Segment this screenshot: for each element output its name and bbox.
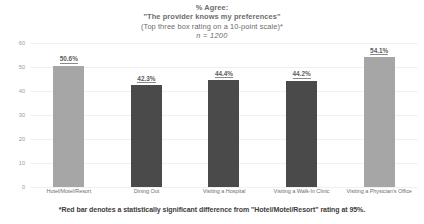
x-axis-category-label: Visiting a Hospital [185, 188, 263, 195]
bar-value-label: 44.2% [293, 70, 311, 79]
y-axis-tick-label: 50 [19, 64, 25, 70]
y-axis-tick-label: 60 [19, 40, 25, 46]
x-axis-category-label: Visiting a Walk-In Clinic [263, 188, 341, 195]
chart-title-line-1: % Agree: [0, 3, 424, 12]
bar-value-label: 54.1% [370, 47, 388, 56]
bar-value-label: 44.4% [215, 70, 233, 79]
bar-value-label: 50.6% [60, 55, 78, 64]
y-axis: 6050403020100 [0, 43, 30, 187]
y-axis-tick-label: 10 [19, 160, 25, 166]
y-axis-tick-label: 30 [19, 112, 25, 118]
bar-slot: 44.2% [263, 43, 341, 187]
bar-slot: 50.6% [30, 43, 108, 187]
x-axis-category-label: Hotel/Motel/Resort [30, 188, 108, 195]
plot-area: 6050403020100 50.6%42.3%44.4%44.2%54.1% [0, 43, 424, 187]
y-axis-tick-label: 0 [22, 184, 25, 190]
bar-slot: 54.1% [340, 43, 418, 187]
chart-title-line-3: (Top three box rating on a 10-point scal… [0, 22, 424, 31]
bar-value-label: 42.3% [137, 75, 155, 84]
y-axis-tick-label: 20 [19, 136, 25, 142]
bar[interactable]: 44.2% [286, 81, 317, 187]
bar-slot: 44.4% [185, 43, 263, 187]
bar[interactable]: 44.4% [208, 80, 239, 187]
chart-title-block: % Agree: "The provider knows my preferen… [0, 0, 424, 41]
bar[interactable]: 42.3% [131, 85, 162, 187]
chart-footnote: *Red bar denotes a statistically signifi… [0, 206, 424, 213]
chart-title-line-2: "The provider knows my preferences" [0, 12, 424, 21]
x-axis-category-label: Dining Out [108, 188, 186, 195]
bar[interactable]: 54.1% [364, 57, 395, 187]
bar-slot: 42.3% [108, 43, 186, 187]
y-axis-tick-label: 40 [19, 88, 25, 94]
bar-series: 50.6%42.3%44.4%44.2%54.1% [30, 43, 418, 187]
bar[interactable]: 50.6% [53, 66, 84, 187]
x-axis-category-label: Visiting a Physician's Office [340, 188, 418, 195]
chart-sample-size-label: n = 1200 [0, 31, 424, 40]
x-axis-category-labels: Hotel/Motel/ResortDining OutVisiting a H… [30, 188, 418, 195]
